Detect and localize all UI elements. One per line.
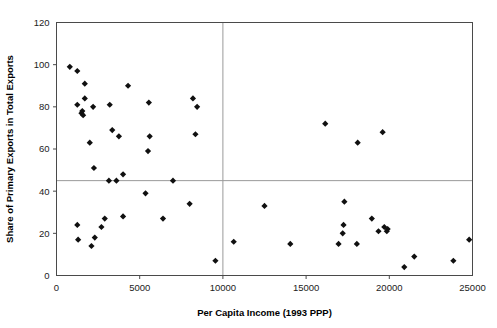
y-tick-label: 40 bbox=[39, 186, 50, 197]
y-tick-label: 0 bbox=[44, 270, 49, 281]
data-point-marker bbox=[67, 64, 73, 70]
data-point-marker bbox=[82, 95, 88, 101]
data-points-group bbox=[67, 64, 473, 270]
data-point-marker bbox=[75, 237, 81, 243]
data-point-marker bbox=[170, 178, 176, 184]
x-tick-label: 10000 bbox=[210, 282, 236, 293]
data-point-marker bbox=[142, 190, 148, 196]
data-point-marker bbox=[340, 222, 346, 228]
data-point-marker bbox=[88, 243, 94, 249]
data-point-marker bbox=[354, 241, 360, 247]
x-tick-label: 15000 bbox=[293, 282, 319, 293]
data-point-marker bbox=[91, 165, 97, 171]
data-point-marker bbox=[411, 253, 417, 259]
data-point-marker bbox=[120, 213, 126, 219]
data-point-marker bbox=[261, 203, 267, 209]
data-point-marker bbox=[147, 133, 153, 139]
y-tick-label: 120 bbox=[34, 17, 50, 28]
data-point-marker bbox=[146, 100, 152, 106]
data-point-marker bbox=[74, 68, 80, 74]
x-axis-title: Per Capita Income (1993 PPP) bbox=[197, 307, 332, 318]
data-point-marker bbox=[369, 215, 375, 221]
data-point-marker bbox=[87, 140, 93, 146]
y-tick-label: 60 bbox=[39, 143, 50, 154]
data-point-marker bbox=[190, 95, 196, 101]
x-tick-label: 25000 bbox=[459, 282, 485, 293]
data-point-marker bbox=[466, 237, 472, 243]
data-point-marker bbox=[106, 178, 112, 184]
data-point-marker bbox=[82, 81, 88, 87]
data-point-marker bbox=[380, 129, 386, 135]
data-point-marker bbox=[90, 104, 96, 110]
data-point-marker bbox=[109, 127, 115, 133]
y-tick-label: 20 bbox=[39, 228, 50, 239]
data-point-marker bbox=[113, 178, 119, 184]
data-point-marker bbox=[401, 264, 407, 270]
data-point-marker bbox=[322, 121, 328, 127]
data-point-marker bbox=[194, 104, 200, 110]
x-tick-label: 5000 bbox=[129, 282, 150, 293]
data-point-marker bbox=[107, 102, 113, 108]
data-point-marker bbox=[231, 239, 237, 245]
data-point-marker bbox=[375, 228, 381, 234]
data-point-marker bbox=[335, 241, 341, 247]
data-point-marker bbox=[74, 222, 80, 228]
data-point-marker bbox=[92, 234, 98, 240]
scatter-chart: 0500010000150002000025000020406080100120… bbox=[0, 0, 497, 328]
x-tick-label: 20000 bbox=[376, 282, 402, 293]
data-point-marker bbox=[450, 258, 456, 264]
data-point-marker bbox=[125, 83, 131, 89]
y-tick-label: 100 bbox=[34, 59, 50, 70]
y-axis-title: Share of Primary Exports in Total Export… bbox=[4, 55, 15, 243]
data-point-marker bbox=[355, 140, 361, 146]
data-point-marker bbox=[98, 224, 104, 230]
data-point-marker bbox=[116, 133, 122, 139]
data-point-marker bbox=[212, 258, 218, 264]
y-tick-label: 80 bbox=[39, 101, 50, 112]
data-point-marker bbox=[192, 131, 198, 137]
data-point-marker bbox=[340, 230, 346, 236]
data-point-marker bbox=[287, 241, 293, 247]
x-tick-label: 0 bbox=[54, 282, 59, 293]
data-point-marker bbox=[102, 215, 108, 221]
chart-canvas: 0500010000150002000025000020406080100120… bbox=[0, 0, 497, 328]
data-point-marker bbox=[74, 102, 80, 108]
data-point-marker bbox=[145, 148, 151, 154]
data-point-marker bbox=[187, 201, 193, 207]
data-point-marker bbox=[120, 171, 126, 177]
data-point-marker bbox=[160, 215, 166, 221]
plot-frame bbox=[57, 23, 473, 276]
data-point-marker bbox=[341, 199, 347, 205]
